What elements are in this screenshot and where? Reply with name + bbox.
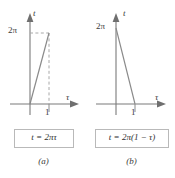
formula-box-b: t = 2π(1 − τ) (95, 129, 169, 148)
curve-a (30, 33, 49, 104)
y-axis-label-a: t (33, 9, 36, 18)
plot-area-a (0, 0, 87, 122)
y-axis-label-b: t (123, 9, 126, 18)
y-tick-label-a: 2π (8, 26, 17, 35)
x-tick-label-a: 1 (45, 108, 50, 117)
y-tick-label-b: 2π (96, 22, 105, 31)
y-axis-a (27, 13, 34, 115)
x-axis-label-b: τ (155, 93, 158, 102)
x-tick-label-b: 1 (131, 108, 136, 117)
panel-b: t τ 2π 1 t = 2π(1 − τ) (b) (88, 0, 175, 178)
curve-b (116, 28, 135, 104)
caption-b: (b) (88, 157, 175, 166)
plot-area-b (88, 0, 175, 122)
figure-two-panel-ramp-plots: t τ 2π 1 t = 2πτ (a) (0, 0, 175, 178)
x-axis-label-a: τ (66, 93, 69, 102)
panel-a: t τ 2π 1 t = 2πτ (a) (0, 0, 87, 178)
caption-a: (a) (0, 157, 87, 166)
formula-box-a: t = 2πτ (14, 129, 74, 148)
